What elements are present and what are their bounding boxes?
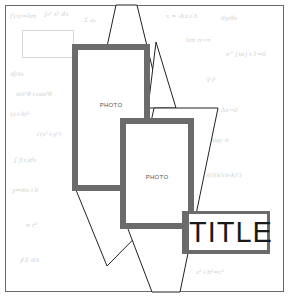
photo-label: PHOTO (126, 174, 188, 180)
photo-label: PHOTO (78, 102, 144, 108)
title-text: TITLE (189, 217, 267, 247)
triangle-shape-upper (148, 42, 176, 108)
title-box[interactable]: TITLE (182, 211, 270, 254)
scrapbook-layout-canvas: f'(x)=lim ∫₀¹ x² dx Σ aₙ x = -b±√Δ dy/dx… (0, 0, 290, 297)
